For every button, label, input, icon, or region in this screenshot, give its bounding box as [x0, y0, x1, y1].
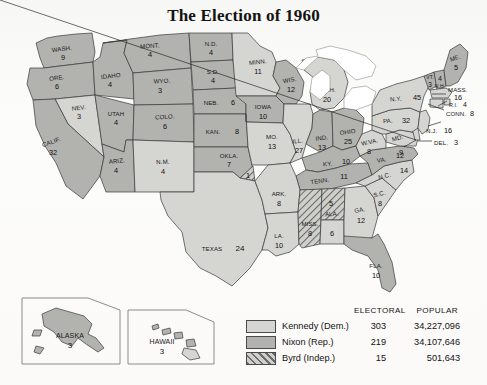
state-votes-north-carolina: 14 [400, 166, 408, 175]
state-label-new-jersey: N.J. [426, 127, 437, 134]
state-votes-illinois: 27 [295, 146, 303, 155]
state-label-kansas: KAN. [206, 128, 221, 135]
state-label-pennsylvania: PA. [383, 117, 393, 125]
state-votes-minnesota: 11 [254, 67, 262, 76]
legend-electoral-byrd: 15 [356, 353, 386, 363]
state-votes-ohio: 25 [344, 137, 352, 146]
state-label-colorado: COLO. [155, 112, 175, 120]
inset-votes-alaska: 3 [68, 341, 73, 350]
state-label-iowa: IOWA [255, 103, 272, 110]
state-label-alabama: ALA. [325, 209, 339, 217]
state-votes-montana: 4 [148, 50, 152, 59]
state-votes-oregon: 6 [55, 82, 59, 91]
state-votes-kansas: 8 [235, 127, 239, 136]
state-label-kentucky: KY. [323, 159, 333, 167]
state-votes-oklahoma: 7 [227, 160, 231, 169]
legend-swatch-byrd [246, 352, 276, 365]
map-state-louisiana[interactable]: LA. 10 [262, 212, 299, 256]
map-state-connecticut[interactable] [430, 99, 443, 108]
state-votes-new-york: 45 [413, 93, 421, 102]
inset-hawaii[interactable]: HAWAII 3 [128, 310, 214, 364]
state-votes-south-dakota: 4 [211, 76, 215, 85]
legend-name-byrd: Byrd (Indep.) [282, 353, 356, 363]
state-label-massachusetts: MASS. [448, 86, 468, 93]
state-votes-georgia: 12 [357, 216, 365, 225]
legend-header: ELECTORAL POPULAR [246, 306, 484, 318]
map-state-wyoming[interactable]: WYO. 3 [133, 68, 193, 105]
state-label-utah: UTAH [108, 110, 125, 117]
legend-header-popular: POPULAR [384, 306, 458, 318]
state-label-texas: TEXAS [202, 245, 222, 252]
exterior-label-connecticut[interactable]: CONN. 8 [446, 109, 474, 118]
state-votes-south-carolina: 8 [378, 199, 382, 208]
exterior-label-delaware[interactable]: DEL. 3 [434, 138, 458, 147]
state-votes-arkansas: 8 [277, 199, 281, 208]
inset-alaska[interactable]: ALASKA 3 [22, 298, 120, 364]
legend-electoral-nixon: 219 [356, 337, 386, 347]
map-state-alabama-kennedy-portion[interactable]: 6 [320, 220, 344, 244]
state-votes-nevada: 3 [77, 112, 81, 121]
legend-swatch-nixon [246, 336, 276, 349]
legend-row-nixon[interactable]: Nixon (Rep.) 219 34,107,646 [246, 334, 484, 350]
legend-name-nixon: Nixon (Rep.) [282, 337, 356, 347]
map-state-colorado[interactable]: COLO. 6 [133, 104, 194, 142]
legend-electoral-kennedy: 303 [356, 321, 386, 331]
map-state-minnesota[interactable]: MINN. 11 [232, 33, 280, 96]
map-state-kansas[interactable]: KAN. 8 [194, 114, 248, 147]
state-votes-pennsylvania: 32 [402, 116, 410, 125]
state-label-oklahoma: OKLA. [220, 152, 239, 159]
state-votes-alabama-byrd: 5 [329, 199, 333, 208]
state-votes-idaho: 4 [108, 80, 112, 89]
state-votes-tennessee: 11 [340, 172, 348, 181]
state-votes-west-virginia: 8 [367, 147, 371, 156]
state-votes-nebraska: 6 [231, 98, 235, 107]
state-label-new-york: N.Y. [390, 95, 402, 103]
legend: ELECTORAL POPULAR Kennedy (Dem.) 303 34,… [246, 306, 484, 366]
state-votes-massachusetts: 16 [454, 93, 462, 102]
map-state-florida[interactable]: FLA. 10 [344, 234, 396, 292]
state-votes-texas: 24 [236, 244, 245, 253]
state-label-vermont: VT. [426, 74, 434, 80]
inset-label-alaska: ALASKA [56, 332, 84, 339]
map-state-mississippi[interactable]: MISS. 8 [298, 189, 322, 248]
map-state-oregon[interactable]: ORE. 6 [27, 62, 95, 100]
state-votes-new-jersey: 16 [444, 126, 452, 135]
map-state-alabama-byrd-portion[interactable]: 5 ALA. [321, 188, 345, 220]
map-state-new-mexico[interactable]: N.M. 4 [133, 140, 194, 192]
state-votes-utah: 4 [114, 118, 118, 127]
state-label-nebraska: NEB. [204, 99, 219, 106]
legend-row-kennedy[interactable]: Kennedy (Dem.) 303 34,227,096 [246, 318, 484, 334]
legend-popular-nixon: 34,107,646 [386, 337, 460, 347]
legend-popular-byrd: 501,643 [386, 353, 460, 363]
state-votes-new-hampshire: 4 [438, 75, 442, 82]
state-label-mississippi: MISS. [301, 220, 318, 227]
state-votes-connecticut: 8 [470, 109, 474, 118]
state-votes-maine: 5 [454, 63, 458, 72]
state-label-louisiana: LA. [274, 232, 284, 239]
election-map-figure: The Election of 1960 WASH. 9 ORE. 6 IDAH… [0, 0, 487, 385]
state-votes-vermont: 3 [428, 81, 432, 88]
state-votes-new-mexico: 4 [161, 167, 165, 176]
state-label-illinois: ILL. [292, 136, 304, 144]
state-label-florida: FLA. [369, 262, 382, 269]
state-label-rhode-island: R.I. [449, 102, 458, 108]
map-state-north-dakota[interactable]: N.D. 4 [189, 33, 233, 62]
state-votes-arizona: 4 [114, 166, 118, 175]
state-votes-florida: 10 [372, 271, 380, 280]
state-label-delaware: DEL. [434, 139, 448, 146]
exterior-label-new-jersey[interactable]: N.J. 16 [426, 126, 452, 135]
legend-header-electoral: ELECTORAL [354, 306, 384, 318]
unpledged-elector-votes: 1 [246, 171, 250, 180]
state-label-north-dakota: N.D. [205, 40, 218, 47]
map-state-maine[interactable]: ME. 5 [444, 44, 468, 86]
state-votes-wisconsin: 12 [287, 85, 295, 94]
legend-row-byrd[interactable]: Byrd (Indep.) 15 501,643 [246, 350, 484, 366]
map-state-south-dakota[interactable]: S.D. 4 [191, 60, 236, 90]
legend-swatch-kennedy [246, 320, 276, 333]
state-votes-mississippi: 8 [308, 229, 312, 238]
inset-label-hawaii: HAWAII [150, 338, 175, 345]
state-votes-louisiana: 10 [275, 241, 283, 250]
state-votes-washington: 9 [61, 53, 65, 62]
state-label-wyoming: WYO. [153, 77, 170, 85]
exterior-label-rhode-island[interactable]: R.I. 4 [449, 101, 467, 108]
